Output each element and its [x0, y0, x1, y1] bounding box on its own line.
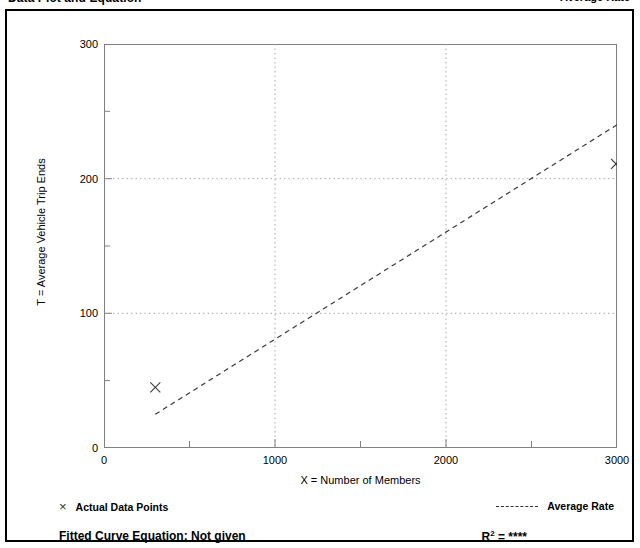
legend-item-actual-data-points: × Actual Data Points [59, 500, 168, 513]
data-point-marker [150, 382, 160, 392]
fitted-curve-equation: Fitted Curve Equation: Not given [59, 529, 246, 543]
legend-label-actual-data-points: Actual Data Points [76, 501, 169, 513]
page-title: Data Plot and Equation [8, 0, 142, 5]
x-tick-label-2000: 2000 [434, 454, 458, 466]
r2-stars: **** [508, 530, 527, 544]
y-tick-label-100: 100 [80, 307, 98, 319]
y-axis-title: T = Average Vehicle Trip Ends [35, 122, 47, 342]
legend-label-average-rate: Average Rate [547, 500, 614, 512]
x-tick-label-3000: 3000 [605, 454, 629, 466]
r2-equals: = [495, 530, 509, 544]
trend-line-average-rate [155, 125, 617, 415]
horizontal-gridlines [104, 179, 617, 314]
x-axis-tick-labels: 0 1000 2000 3000 [104, 454, 617, 470]
y-tick-label-300: 300 [80, 38, 98, 50]
chart-legend: × Actual Data Points Average Rate [7, 500, 636, 522]
y-tick-label-200: 200 [80, 173, 98, 185]
plot-area [104, 44, 617, 448]
x-marker-icon: × [59, 500, 67, 513]
y-axis-tick-labels: 300 200 100 0 [62, 44, 98, 448]
legend-item-average-rate: Average Rate [496, 500, 614, 512]
y-axis-minor-ticks [104, 111, 110, 380]
x-axis-title: X = Number of Members [104, 474, 617, 486]
x-tick-label-1000: 1000 [263, 454, 287, 466]
page-header-right-text: Average Rate [560, 0, 630, 3]
x-tick-label-0: 0 [101, 454, 107, 466]
figure-frame: 300 200 100 0 T = Average Vehicle Trip E… [5, 9, 634, 542]
page-header: Data Plot and Equation Average Rate [0, 0, 640, 9]
data-point-marker [611, 159, 617, 169]
data-point-markers [150, 159, 617, 393]
r-squared-value: R2 = **** [482, 529, 528, 544]
equation-row: Fitted Curve Equation: Not given R2 = **… [7, 529, 636, 548]
vertical-gridlines [275, 44, 446, 448]
dashed-line-icon [496, 506, 538, 507]
r2-prefix: R [482, 530, 491, 544]
plot-canvas [104, 44, 617, 448]
x-axis-minor-ticks [190, 441, 532, 448]
y-tick-label-0: 0 [92, 442, 98, 454]
